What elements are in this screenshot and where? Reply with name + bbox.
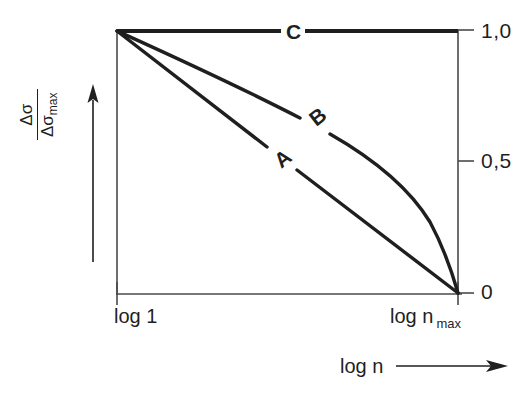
x-axis-title: log n <box>340 356 383 376</box>
y-axis-fraction: Δσ Δσmax <box>18 89 60 140</box>
y-axis-arrow <box>88 84 99 262</box>
y-axis-title: Δσ Δσmax <box>18 89 60 140</box>
y-axis-fraction-denominator: Δσmax <box>38 89 60 140</box>
series-label-c: C <box>283 21 304 42</box>
y-axis-fraction-numerator: Δσ <box>18 89 38 140</box>
chart-canvas <box>0 0 532 393</box>
y-axis-fraction-denominator-subscript: max <box>46 92 60 115</box>
figure-root: 1,0 0,5 0 log 1 log nmax log n Δσ Δσmax … <box>0 0 532 393</box>
series-B-segment-lower <box>330 134 458 293</box>
y-axis-fraction-denominator-base: Δσ <box>38 115 57 137</box>
x-axis-arrow <box>396 360 508 372</box>
y-axis-ticks <box>458 30 474 293</box>
x-tick-label-log-1: log 1 <box>114 306 157 326</box>
series-B-segment-upper <box>117 31 300 118</box>
y-tick-label-0: 0 <box>481 281 493 302</box>
x-tick-label-log-n-subscript: max <box>436 316 461 331</box>
x-tick-label-log-n-base: log n <box>390 305 433 327</box>
y-tick-label-0_5: 0,5 <box>481 150 512 171</box>
x-tick-label-log-n-max: log nmax <box>390 306 461 330</box>
y-tick-label-1_0: 1,0 <box>481 20 512 41</box>
